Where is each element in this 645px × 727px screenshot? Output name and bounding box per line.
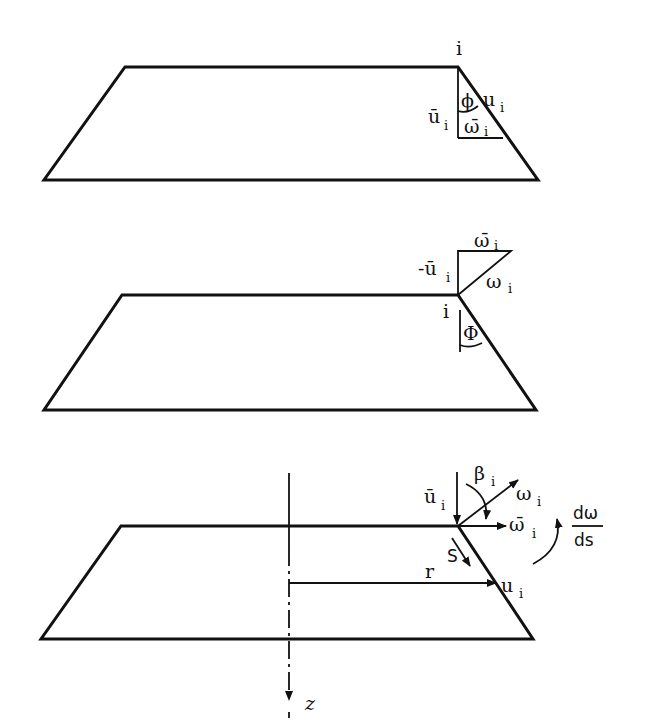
z-axis-label: z xyxy=(304,692,316,714)
vector-triangle xyxy=(458,251,511,295)
u-bar-label: ū xyxy=(424,485,436,507)
w-bar-label: ω̄ xyxy=(474,229,490,251)
panel-1: i ϕ u i ū i ω̄ i xyxy=(44,37,538,180)
w-bar-subscript: i xyxy=(532,526,536,541)
dw-ds-numerator: dω xyxy=(573,503,598,523)
w-bar-label: ω̄ xyxy=(464,115,480,137)
w-bar-label: ω̄ xyxy=(509,513,525,535)
w-subscript: i xyxy=(537,494,541,509)
beta-angle-arc xyxy=(466,484,486,519)
node-label: i xyxy=(456,37,462,59)
w-bar-subscript: i xyxy=(494,238,498,253)
u-subscript: i xyxy=(519,586,523,601)
rotation-arrow xyxy=(533,519,558,564)
neg-u-bar-label: -ū xyxy=(418,257,437,279)
u-bar-subscript: i xyxy=(444,118,448,133)
u-bar-subscript: i xyxy=(441,498,445,513)
phi-label: ϕ xyxy=(461,89,474,111)
s-label: S xyxy=(447,546,458,566)
w-label: ω xyxy=(486,270,502,292)
w-bar-subscript: i xyxy=(484,124,488,139)
r-label: r xyxy=(425,560,435,582)
phi-label: Φ xyxy=(463,322,479,344)
beta-label: β xyxy=(474,462,485,484)
w-label: ω xyxy=(516,482,532,504)
diagram-canvas: i ϕ u i ū i ω̄ i i Φ -ū i ω̄ i ω i z r u xyxy=(0,0,645,727)
u-label: u xyxy=(501,574,513,596)
u-bar-label: ū xyxy=(428,105,440,127)
u-label: u xyxy=(483,88,495,110)
u-subscript: i xyxy=(500,100,504,115)
node-label: i xyxy=(443,300,449,322)
w-subscript: i xyxy=(508,281,512,296)
trapezoid-section xyxy=(44,295,536,410)
neg-u-bar-subscript: i xyxy=(446,270,450,285)
panel-3: z r u i ū i ω i ω̄ i β i S dω ds xyxy=(41,462,603,718)
beta-subscript: i xyxy=(491,474,495,489)
panel-2: i Φ -ū i ω̄ i ω i xyxy=(44,229,536,410)
dw-ds-denominator: ds xyxy=(574,530,594,550)
